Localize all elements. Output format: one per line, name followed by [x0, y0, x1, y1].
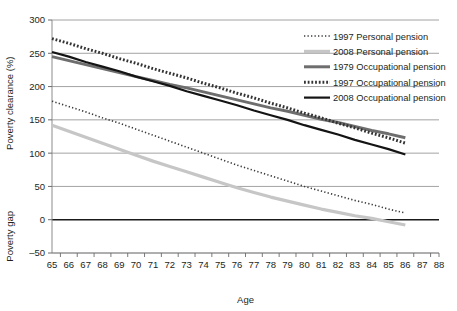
x-tick-label: 74	[198, 259, 209, 270]
legend: 1997 Personal pension2008 Personal pensi…	[304, 32, 446, 104]
x-tick-label: 85	[383, 259, 394, 270]
chart-canvas: 300250200150100500–506566676869707172737…	[0, 0, 457, 311]
x-tick-label: 76	[232, 259, 243, 270]
y-tick-label: 100	[29, 148, 45, 159]
series-line-0	[52, 101, 405, 213]
legend-label-3: 1997 Occupational pension	[333, 78, 446, 88]
y-tick-label: 50	[34, 181, 45, 192]
x-tick-label: 67	[80, 259, 91, 270]
x-tick-label: 73	[181, 259, 192, 270]
x-axis-ticks: 6566676869707172737475767778798081828384…	[47, 253, 445, 270]
x-tick-label: 82	[333, 259, 344, 270]
poverty-clearance-chart: 300250200150100500–506566676869707172737…	[0, 0, 457, 311]
x-tick-label: 70	[131, 259, 142, 270]
x-tick-label: 81	[316, 259, 327, 270]
x-tick-label: 88	[434, 259, 445, 270]
legend-label-0: 1997 Personal pension	[333, 32, 428, 42]
y-tick-label: 200	[29, 81, 45, 92]
legend-label-2: 1979 Occupational pension	[333, 62, 446, 72]
x-tick-label: 79	[282, 259, 293, 270]
x-axis-title: Age	[237, 294, 254, 305]
y-tick-label: 300	[29, 14, 45, 25]
y-tick-label: –50	[29, 247, 45, 258]
x-tick-label: 86	[400, 259, 411, 270]
x-tick-label: 65	[47, 259, 58, 270]
x-tick-label: 75	[215, 259, 226, 270]
x-tick-label: 72	[164, 259, 175, 270]
x-tick-label: 83	[350, 259, 361, 270]
x-tick-label: 80	[299, 259, 310, 270]
y-tick-label: 250	[29, 48, 45, 59]
x-tick-label: 78	[265, 259, 276, 270]
x-tick-label: 68	[97, 259, 108, 270]
y-axis-title-lower: Poverty gap	[4, 211, 15, 262]
x-tick-label: 84	[366, 259, 377, 270]
y-axis-title-upper: Poverty clearance (%)	[4, 56, 15, 149]
x-tick-label: 71	[148, 259, 159, 270]
x-tick-label: 69	[114, 259, 125, 270]
x-tick-label: 66	[64, 259, 75, 270]
x-tick-label: 77	[249, 259, 260, 270]
y-axis-ticks: 300250200150100500–50	[29, 14, 52, 258]
legend-label-1: 2008 Personal pension	[333, 47, 428, 57]
legend-label-4: 2008 Occupational pension	[333, 93, 446, 103]
x-tick-label: 87	[417, 259, 428, 270]
y-tick-label: 0	[40, 214, 45, 225]
y-tick-label: 150	[29, 114, 45, 125]
